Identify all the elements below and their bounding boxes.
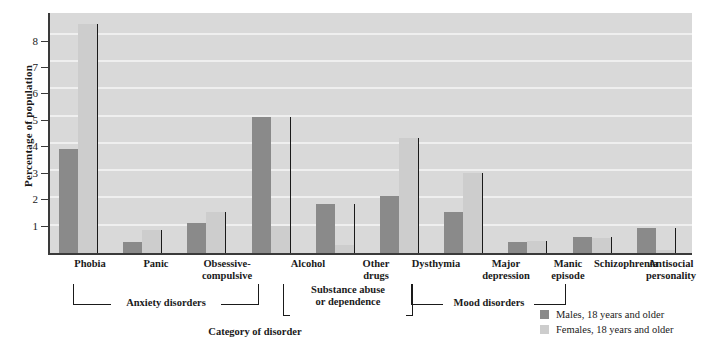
chart-figure: Percentage of population 8 7 6 5 4 3 2 1… [0,0,706,350]
y-ticklabel-4: 4 [12,140,38,152]
bar-male-8 [573,237,592,253]
group-separator-2 [225,212,226,253]
legend-item-females: Females, 18 years and older [540,322,674,337]
bar-male-6 [444,212,463,253]
legend-swatch-females-icon [540,325,549,334]
y-ticklabel-6: 6 [12,87,38,99]
category-label-obsessive-compulsive: Obsessive- compulsive [184,258,270,281]
category-label-phobia: Phobia [50,258,130,270]
group-separator-0 [97,24,98,253]
y-tick-1 [41,226,48,227]
plot-area [48,13,692,255]
gridline-7 [50,60,692,62]
bracket-anxiety-disorders: Anxiety disorders [73,284,259,308]
bar-male-5 [380,196,399,253]
legend-item-males: Males, 18 years and older [540,307,674,322]
y-tick-5 [41,120,48,121]
bar-male-2 [187,223,206,253]
gridline-6 [50,87,692,89]
legend-label-males: Males, 18 years and older [556,309,664,320]
legend-label-females: Females, 18 years and older [556,324,674,335]
bar-female-7 [527,241,546,253]
bracket-label-anxiety: Anxiety disorders [107,297,225,309]
group-separator-3 [290,117,291,253]
bar-male-7 [508,242,527,253]
gridline-1 [50,224,692,226]
group-separator-5 [418,138,419,253]
bracket-label-substance: Substance abuse or dependence [289,284,407,307]
category-label-panic: Panic [120,258,192,270]
bar-female-9 [656,250,675,253]
bar-female-5 [399,138,418,253]
bar-male-3 [252,117,271,253]
y-tick-7 [41,67,48,68]
bar-female-4 [335,245,354,253]
bar-male-0 [59,149,78,253]
group-separator-6 [482,173,483,253]
bracket-substance-abuse: Substance abuse or dependence [283,284,413,320]
bar-male-1 [123,242,142,253]
bar-female-3 [271,226,290,253]
bar-female-2 [206,212,225,253]
y-tick-6 [41,93,48,94]
y-ticklabel-1: 1 [12,220,38,232]
y-ticklabel-8: 8 [12,35,38,47]
bar-female-1 [142,230,161,253]
group-separator-7 [546,241,547,253]
y-ticklabel-3: 3 [12,167,38,179]
bar-female-0 [78,24,97,253]
x-axis-title: Category of disorder [150,326,360,337]
gridline-4 [50,142,692,144]
gridline-3 [50,169,692,171]
y-ticklabel-5: 5 [12,114,38,126]
gridline-5 [50,115,692,117]
legend-swatch-males-icon [540,310,549,319]
legend: Males, 18 years and older Females, 18 ye… [540,307,674,337]
y-tick-8 [41,41,48,42]
category-label-alcohol: Alcohol [268,258,348,270]
bracket-label-mood: Mood disorders [439,297,539,309]
bar-male-9 [637,228,656,253]
bracket-mood-disorders: Mood disorders [411,284,566,308]
group-separator-1 [161,230,162,253]
bar-female-6 [463,173,482,253]
group-separator-8 [611,237,612,253]
gridline-2 [50,196,692,198]
y-ticklabel-2: 2 [12,193,38,205]
category-label-antisocial-personality: Antisocial personality [634,258,706,281]
gridline-8 [50,33,692,35]
y-ticklabel-7: 7 [12,61,38,73]
bar-male-4 [316,204,335,253]
group-separator-9 [675,228,676,253]
y-tick-3 [41,173,48,174]
bar-female-8 [592,238,611,253]
y-tick-4 [41,146,48,147]
group-separator-4 [354,204,355,253]
y-tick-2 [41,199,48,200]
